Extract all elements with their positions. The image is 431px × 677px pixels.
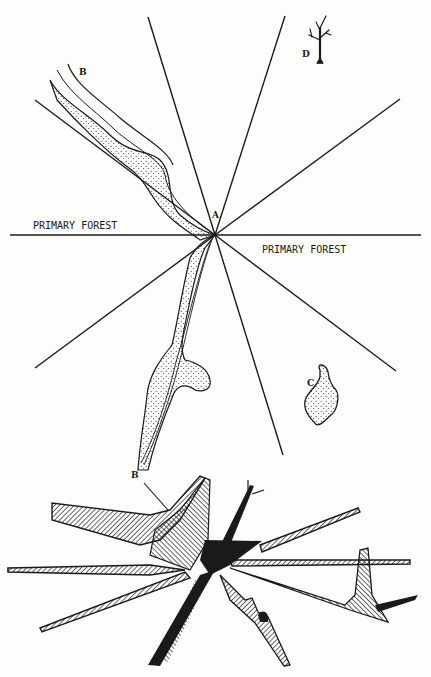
- ray-profile-lower-left: [40, 572, 190, 632]
- plan-view: PRIMARY FOREST PRIMARY FOREST A B C D B: [10, 16, 421, 480]
- center-mass: [200, 540, 262, 575]
- label-point-a: A: [211, 210, 220, 220]
- profile-view: B: [8, 476, 418, 666]
- ray-profile-right: [230, 560, 410, 566]
- label-stream-b-bottom: B: [131, 470, 139, 480]
- ray-profile-left: [8, 565, 185, 575]
- figure-page: PRIMARY FOREST PRIMARY FOREST A B C D B: [0, 0, 431, 677]
- label-tree-d: D: [302, 49, 310, 59]
- ray-profile-upper-right: [260, 508, 360, 552]
- label-primary-forest-left: PRIMARY FOREST: [33, 220, 117, 231]
- ray-ene: [215, 99, 400, 235]
- stream-b-upper: [50, 64, 215, 240]
- leader-line-b: [144, 483, 168, 510]
- label-primary-forest-right: PRIMARY FOREST: [262, 244, 346, 255]
- tree-silhouette: [222, 485, 254, 545]
- ray-wnw: [35, 100, 215, 235]
- label-stream-b-top: B: [79, 67, 87, 77]
- ray-nne: [215, 16, 285, 235]
- tree-icon: [309, 16, 331, 63]
- ray-profile-lower-center: [220, 575, 290, 666]
- sight-lines: [10, 16, 421, 455]
- label-patch-c: C: [307, 378, 314, 388]
- ray-sse: [215, 235, 283, 455]
- patch-c: [305, 365, 338, 425]
- figure-canvas: PRIMARY FOREST PRIMARY FOREST A B C D B: [0, 0, 431, 677]
- shadow-right: [375, 595, 418, 612]
- ray-ese: [215, 235, 396, 371]
- stream-b-lower: [138, 235, 215, 470]
